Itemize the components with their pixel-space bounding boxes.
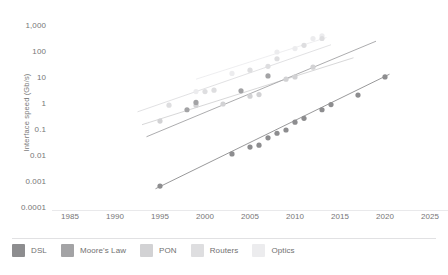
trend-line [138,45,332,112]
data-point [238,88,243,93]
x-tick-label: 2015 [318,212,362,221]
legend-item[interactable]: Moore's Law [61,244,126,257]
data-point [292,74,297,79]
y-axis-label: Interface speed (Gb/s) [22,43,31,183]
data-point [319,36,324,41]
data-point [382,74,387,79]
data-point [328,102,333,107]
data-point [157,183,162,188]
trend-line [142,58,354,125]
y-tick-label: 1,000 [0,21,46,30]
data-point [229,71,234,76]
data-point [247,68,252,73]
y-tick-label: 0.001 [0,177,46,186]
legend-label: DSL [31,246,47,255]
x-tick-label: 1990 [93,212,137,221]
data-point [220,101,225,106]
data-point [229,151,234,156]
data-point [292,120,297,125]
data-point [211,88,216,93]
data-point [265,73,270,78]
data-point [301,43,306,48]
y-tick-label: 100 [0,47,46,56]
data-point [283,77,288,82]
x-tick-label: 1995 [138,212,182,221]
chart-plot-area [0,0,448,275]
data-point [202,89,207,94]
data-point [274,131,279,136]
legend-item[interactable]: Optics [252,244,294,257]
data-point [301,116,306,121]
data-point [256,143,261,148]
series-layer [138,33,390,189]
legend-item[interactable]: Routers [191,244,239,257]
data-point [310,65,315,70]
data-point [274,49,279,54]
x-tick-label: 1985 [48,212,92,221]
data-point [265,64,270,69]
y-tick-label: 0.1 [0,125,46,134]
y-tick-label: 1 [0,99,46,108]
legend-label: Optics [271,246,294,255]
data-point [166,103,171,108]
data-point [193,100,198,105]
data-point [256,92,261,97]
trend-line [147,41,377,137]
data-point [283,127,288,132]
data-point [310,36,315,41]
legend-label: PON [159,246,177,255]
data-point [184,107,189,112]
legend-swatch [12,244,25,257]
chart-legend: DSLMoore's LawPONRoutersOptics [12,244,309,257]
data-point [274,56,279,61]
legend-item[interactable]: PON [140,244,177,257]
data-point [157,119,162,124]
y-tick-label: 0.01 [0,151,46,160]
interface-speed-chart: Interface speed (Gb/s) 1,0001001010.10.0… [0,0,448,275]
data-point [355,93,360,98]
legend-item[interactable]: DSL [12,244,47,257]
y-tick-label: 0.0001 [0,203,46,212]
legend-swatch [191,244,204,257]
data-point [319,107,324,112]
x-tick-label: 2000 [183,212,227,221]
data-point [265,135,270,140]
legend-label: Routers [210,246,239,255]
legend-swatch [252,244,265,257]
x-tick-label: 2020 [363,212,407,221]
y-tick-label: 10 [0,73,46,82]
trend-line [156,74,390,189]
legend-swatch [61,244,74,257]
x-tick-label: 2005 [228,212,272,221]
x-tick-label: 2010 [273,212,317,221]
data-point [292,46,297,51]
data-point [193,89,198,94]
x-tick-label: 2025 [408,212,448,221]
legend-swatch [140,244,153,257]
data-point [247,145,252,150]
data-point [247,94,252,99]
legend-label: Moore's Law [80,246,126,255]
